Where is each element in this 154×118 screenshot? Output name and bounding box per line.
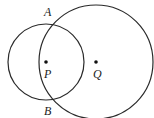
label-p: P xyxy=(43,67,52,81)
label-a: A xyxy=(43,5,52,19)
center-point-q xyxy=(94,60,98,64)
label-q: Q xyxy=(93,67,102,81)
label-b: B xyxy=(44,104,52,118)
center-point-p xyxy=(44,60,48,64)
intersecting-circles-diagram: A B P Q xyxy=(0,0,154,118)
